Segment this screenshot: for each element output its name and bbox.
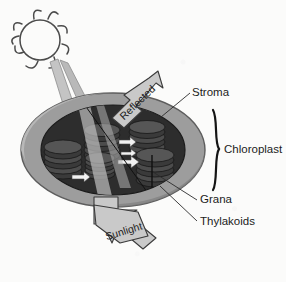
label-chloroplast: Chloroplast	[224, 143, 283, 155]
label-grana: Grana	[200, 193, 233, 205]
label-thylakoids: Thylakoids	[200, 215, 255, 227]
label-stroma: Stroma	[192, 86, 230, 98]
chloroplast-diagram: Reflected Sunlight Stroma Chloroplast Gr…	[0, 0, 286, 282]
